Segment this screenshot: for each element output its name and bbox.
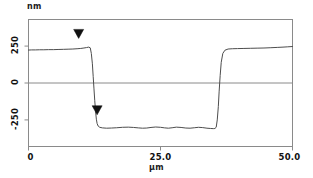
y-tick-label: 0 xyxy=(10,67,20,97)
x-tick-label: 0 xyxy=(11,152,51,162)
x-tick-label: 50.0 xyxy=(270,152,310,162)
axis-ticks xyxy=(25,46,293,150)
y-tick-label: 250 xyxy=(10,30,20,60)
y-tick-label: -250 xyxy=(10,104,20,134)
cursor-markers xyxy=(74,29,102,114)
profile-chart-figure: nm µm 2500-250 025.050.0 xyxy=(0,0,313,178)
x-tick-label: 25.0 xyxy=(141,152,181,162)
profile-trace xyxy=(29,47,293,129)
